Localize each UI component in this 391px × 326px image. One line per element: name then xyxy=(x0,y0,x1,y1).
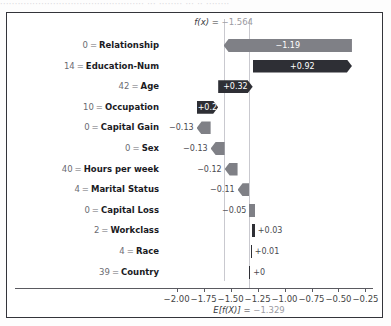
feature-value: 10 xyxy=(83,102,94,112)
feature-value: 0 xyxy=(84,122,89,132)
feature-row: 4=Marital Status−0.11 xyxy=(7,181,384,198)
shap-bar-value-label: +0 xyxy=(250,266,265,279)
feature-label: 4=Marital Status xyxy=(74,181,159,198)
x-tick-label: −1.25 xyxy=(245,294,271,304)
shap-waterfall-figure: ········································… xyxy=(0,0,391,326)
feature-row: 4=Race+0.01 xyxy=(7,243,384,260)
feature-equals: = xyxy=(125,246,136,256)
shap-bar-value-label: −0.12 xyxy=(197,163,225,176)
x-tick-label: −1.00 xyxy=(271,294,297,304)
feature-label: 0=Capital Loss xyxy=(84,202,159,219)
feature-equals: = xyxy=(80,184,91,194)
fx-annotation-value: −1.564 xyxy=(222,17,253,27)
feature-equals: = xyxy=(90,205,101,215)
feature-name: Race xyxy=(136,246,159,256)
feature-equals: = xyxy=(88,40,99,50)
feature-name: Workclass xyxy=(110,225,159,235)
fx-annotation-label: f(x) xyxy=(194,17,209,27)
feature-name: Hours per week xyxy=(84,164,159,174)
shap-bar[interactable]: +0.32 xyxy=(218,80,253,93)
expected-value-annotation: E[f(X)] = −1.329 xyxy=(213,305,284,315)
x-axis-line xyxy=(15,288,373,289)
feature-row: 0=Relationship−1.19 xyxy=(7,37,384,54)
x-tick-label: −2.00 xyxy=(164,294,190,304)
feature-equals: = xyxy=(94,102,105,112)
feature-row: 42=Age+0.32 xyxy=(7,78,384,95)
feature-label: 0=Capital Gain xyxy=(84,119,159,136)
fx-annotation: f(x) = −1.564 xyxy=(194,17,253,27)
expected-value-equals: = xyxy=(243,305,250,315)
feature-row: 14=Education-Num+0.92 xyxy=(7,58,384,75)
feature-row: 0=Capital Loss−0.05 xyxy=(7,202,384,219)
feature-name: Capital Gain xyxy=(101,122,159,132)
shap-bar[interactable] xyxy=(238,183,250,196)
feature-label: 14=Education-Num xyxy=(64,58,159,75)
x-tick-label: −0.75 xyxy=(298,294,324,304)
feature-value: 4 xyxy=(74,184,79,194)
shap-bar-value-label: −0.13 xyxy=(183,142,211,155)
shap-bar[interactable] xyxy=(211,142,225,155)
expected-value-label: E[f(X)] xyxy=(213,305,240,315)
feature-name: Capital Loss xyxy=(101,205,159,215)
feature-name: Relationship xyxy=(99,40,159,50)
shap-bar-value-label: −0.11 xyxy=(210,183,238,196)
feature-equals: = xyxy=(90,122,101,132)
x-tick xyxy=(204,288,205,292)
feature-name: Marital Status xyxy=(91,184,159,194)
feature-equals: = xyxy=(73,164,84,174)
feature-row: 2=Workclass+0.03 xyxy=(7,222,384,239)
shap-bar-value-label: +0.2 xyxy=(197,101,219,114)
shap-bar[interactable] xyxy=(249,204,254,217)
x-tick xyxy=(231,288,232,292)
feature-equals: = xyxy=(129,81,140,91)
feature-value: 39 xyxy=(99,267,110,277)
feature-equals: = xyxy=(131,143,142,153)
feature-name: Country xyxy=(121,267,159,277)
shap-bar[interactable] xyxy=(225,163,238,176)
figure-frame: f(x) = −1.564 E[f(X)] = −1.329 −2.00−1.7… xyxy=(6,12,383,318)
x-tick-label: −1.75 xyxy=(191,294,217,304)
shap-bar-value-label: −1.19 xyxy=(224,39,352,52)
x-tick xyxy=(312,288,313,292)
feature-label: 39=Country xyxy=(99,264,159,281)
shap-bar-value-label: +0.92 xyxy=(253,60,352,73)
plot-area: f(x) = −1.564 E[f(X)] = −1.329 −2.00−1.7… xyxy=(7,13,384,319)
x-tick xyxy=(285,288,286,292)
feature-label: 10=Occupation xyxy=(83,99,159,116)
shap-bar[interactable] xyxy=(197,121,211,134)
shap-bar[interactable]: +0.2 xyxy=(197,101,219,114)
feature-row: 40=Hours per week−0.12 xyxy=(7,161,384,178)
x-tick-label: −0.50 xyxy=(325,294,351,304)
shap-bar-value-label: −0.13 xyxy=(169,121,197,134)
x-tick xyxy=(177,288,178,292)
shap-bar-value-label: +0.32 xyxy=(218,80,253,93)
feature-name: Age xyxy=(141,81,159,91)
feature-name: Sex xyxy=(142,143,159,153)
feature-value: 42 xyxy=(119,81,130,91)
feature-value: 4 xyxy=(119,246,124,256)
feature-equals: = xyxy=(75,61,86,71)
expected-value-number: −1.329 xyxy=(253,305,284,315)
x-tick xyxy=(338,288,339,292)
feature-label: 2=Workclass xyxy=(94,222,159,239)
feature-equals: = xyxy=(110,267,121,277)
feature-name: Education-Num xyxy=(86,61,159,71)
feature-row: 0=Capital Gain−0.13 xyxy=(7,119,384,136)
clipped-header-text: ········································… xyxy=(0,0,391,9)
feature-equals: = xyxy=(99,225,110,235)
x-tick-label: −1.50 xyxy=(218,294,244,304)
x-tick xyxy=(365,288,366,292)
feature-value: 40 xyxy=(62,164,73,174)
fx-annotation-equals: = xyxy=(212,17,219,27)
shap-bar-value-label: −0.05 xyxy=(222,204,250,217)
shap-bar[interactable]: −1.19 xyxy=(224,39,352,52)
x-tick-label: −0.25 xyxy=(352,294,378,304)
feature-row: 0=Sex−0.13 xyxy=(7,140,384,157)
feature-label: 0=Relationship xyxy=(83,37,159,54)
feature-label: 42=Age xyxy=(119,78,159,95)
feature-row: 39=Country+0 xyxy=(7,264,384,281)
shap-bar[interactable]: +0.92 xyxy=(253,60,352,73)
feature-label: 4=Race xyxy=(119,243,159,260)
feature-label: 0=Sex xyxy=(125,140,159,157)
shap-bar-value-label: +0.03 xyxy=(255,224,283,237)
